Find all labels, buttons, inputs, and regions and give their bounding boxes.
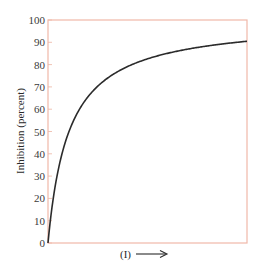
y-tick-label: 60 <box>34 103 46 115</box>
y-tick-label: 40 <box>34 148 46 160</box>
y-tick-label: 80 <box>34 59 46 71</box>
chart: 0102030405060708090100 Inhibition (perce… <box>0 0 263 273</box>
right-arrow-icon <box>136 251 167 258</box>
y-axis-tick-labels: 0102030405060708090100 <box>29 14 46 249</box>
y-tick-label: 10 <box>34 215 46 227</box>
y-tick-label: 30 <box>34 170 46 182</box>
y-tick-label: 0 <box>40 237 46 249</box>
y-axis-label: Inhibition (percent) <box>14 88 27 174</box>
y-tick-label: 20 <box>34 192 46 204</box>
y-tick-label: 70 <box>34 81 46 93</box>
inhibition-curve <box>48 41 247 243</box>
y-tick-label: 50 <box>34 126 46 138</box>
y-tick-label: 100 <box>29 14 46 26</box>
plot-frame <box>48 20 247 243</box>
y-tick-label: 90 <box>34 36 46 48</box>
x-axis-label: (I) <box>120 248 131 261</box>
